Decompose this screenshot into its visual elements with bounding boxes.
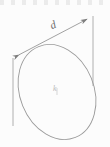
center-label-k: k: [53, 84, 57, 93]
figure-canvas: d k: [0, 0, 110, 147]
